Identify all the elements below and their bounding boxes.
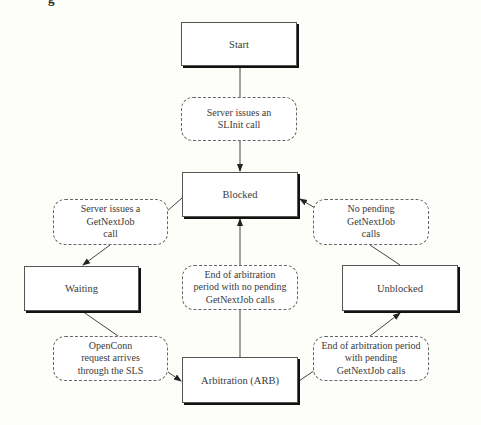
event-end-arbitration-pending-line-1: End of arbitration period <box>321 340 420 353</box>
event-get-next-job-line-3: call <box>81 228 140 241</box>
event-end-arbitration-no-pending-line-2: period with no pending <box>193 281 286 294</box>
event-get-next-job-line-1: Server issues a <box>81 203 140 216</box>
event-get-next-job-line-2: GetNextJob <box>81 216 140 229</box>
event-slinit-line-2: SLInit call <box>207 119 271 132</box>
event-no-pending-line-3: calls <box>347 228 395 241</box>
event-end-arbitration-pending-line-2: with pending <box>321 352 420 365</box>
arrow-getnextjob-to-waiting <box>83 245 110 265</box>
arrow-end-pending-to-unblocked <box>370 313 400 336</box>
event-get-next-job: Server issues a GetNextJob call <box>53 199 168 245</box>
state-arbitration-label: Arbitration (ARB) <box>201 375 279 386</box>
state-start-label: Start <box>229 39 249 50</box>
event-no-pending: No pending GetNextJob calls <box>313 199 429 245</box>
state-arbitration: Arbitration (ARB) <box>182 357 298 403</box>
event-end-arbitration-no-pending-line-1: End of arbitration <box>193 269 286 282</box>
connector-unblocked-to-no-pending <box>370 245 400 265</box>
state-start: Start <box>181 22 297 66</box>
state-blocked: Blocked <box>182 172 298 217</box>
event-open-conn-line-1: OpenConn <box>78 340 144 353</box>
event-end-arbitration-no-pending-line-3: GetNextJob calls <box>193 294 286 307</box>
event-open-conn-line-2: request arrives <box>78 352 144 365</box>
connector-waiting-to-openconn <box>82 311 118 336</box>
arrow-openconn-to-arbitration <box>168 372 181 381</box>
event-no-pending-line-2: GetNextJob <box>347 216 395 229</box>
figure-caption-fragment: g <box>48 0 55 7</box>
state-unblocked: Unblocked <box>342 265 458 311</box>
state-unblocked-label: Unblocked <box>377 283 423 294</box>
event-end-arbitration-pending: End of arbitration period with pending G… <box>313 336 429 381</box>
state-waiting-label: Waiting <box>65 283 98 294</box>
connector-blocked-to-getnextjob <box>166 198 182 212</box>
event-open-conn: OpenConn request arrives through the SLS <box>53 336 168 381</box>
event-slinit-line-1: Server issues an <box>207 107 271 120</box>
state-blocked-label: Blocked <box>223 189 258 200</box>
event-no-pending-line-1: No pending <box>347 203 395 216</box>
event-end-arbitration-pending-line-3: GetNextJob calls <box>321 365 420 378</box>
event-slinit: Server issues an SLInit call <box>181 97 297 141</box>
state-waiting: Waiting <box>24 266 139 311</box>
event-end-arbitration-no-pending: End of arbitration period with no pendin… <box>182 265 298 310</box>
event-open-conn-line-3: through the SLS <box>78 365 144 378</box>
